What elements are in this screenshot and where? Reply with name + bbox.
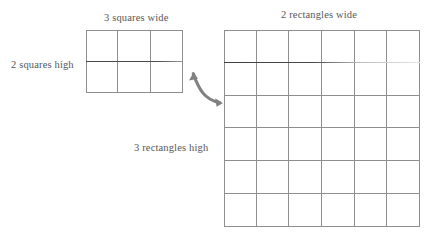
grid-cell [224,30,257,63]
grid-cell [322,161,355,194]
label-rectangles-wide: 2 rectangles wide [281,8,357,21]
grid-cell [289,128,322,161]
grid-cell [257,63,290,96]
label-rectangles-high: 3 rectangles high [134,141,208,154]
grid-cell [151,30,183,62]
grid-cell [322,30,355,63]
grid-cell [224,194,257,227]
grid-cell [224,63,257,96]
grid-cell [224,96,257,129]
grid-cell [151,62,183,94]
grid-cell [387,96,420,129]
grid-cell [322,194,355,227]
grid-cell [322,63,355,96]
grid-cell [387,63,420,96]
grid-cell [257,30,290,63]
grid-cell [86,30,118,62]
grid-cell [322,96,355,129]
grid-cell [257,161,290,194]
grid-cell [86,62,118,94]
grid-cell [322,128,355,161]
grid-cell [355,63,388,96]
grid-cell [257,128,290,161]
grid-cell [387,128,420,161]
grid-cell [224,161,257,194]
grid-cell [355,128,388,161]
grid-cell [257,194,290,227]
grid-cell [289,194,322,227]
figure-canvas: 3 squares wide 2 squares high 2 rectangl… [0,0,429,237]
grid-cell [289,96,322,129]
squares-grid [86,30,183,93]
grid-cell [118,62,150,94]
grid-cell [387,194,420,227]
grid-cell [355,30,388,63]
label-squares-wide: 3 squares wide [104,11,169,24]
curved-transform-arrow [183,70,229,112]
grid-cell [289,30,322,63]
label-squares-high: 2 squares high [11,58,74,71]
grid-cell [387,30,420,63]
grid-cell [355,161,388,194]
grid-cell [257,96,290,129]
grid-cell [355,194,388,227]
grid-cell [387,161,420,194]
rectangles-grid [224,30,420,227]
grid-cell [224,128,257,161]
grid-cell [289,63,322,96]
grid-cell [289,161,322,194]
grid-cell [118,30,150,62]
grid-cell [355,96,388,129]
